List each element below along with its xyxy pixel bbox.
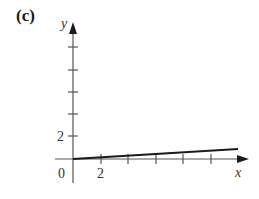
y-axis-label: y (59, 16, 68, 31)
y-tick-label: 2 (57, 129, 64, 144)
x-tick-label: 2 (97, 166, 104, 181)
y-axis-arrow-icon (69, 22, 77, 34)
chart-plot: y x 0 2 2 (0, 0, 259, 199)
x-axis-arrow-icon (237, 155, 249, 163)
origin-label: 0 (58, 166, 65, 181)
x-axis-label: x (234, 165, 242, 180)
